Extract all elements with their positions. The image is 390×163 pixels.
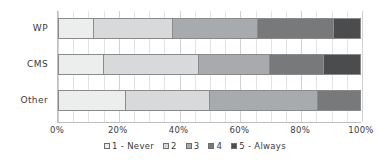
bar-rows [58,11,361,122]
y-axis-tick-label: CMS [27,59,48,69]
x-axis-tick-label: 40% [169,125,189,135]
bar-segment[interactable] [199,55,270,74]
legend-swatch-icon [231,143,237,149]
legend-item-label: 4 [216,141,222,151]
legend-swatch-icon [163,143,169,149]
bar-segment[interactable] [94,19,173,38]
legend-swatch-icon [104,143,110,149]
legend-item-label: 5 - Always [239,141,286,151]
legend-item-label: 1 - Never [112,141,154,151]
bar-segment[interactable] [324,55,360,74]
y-axis-labels: WP CMS Other [0,11,52,122]
x-axis-tick-label: 80% [290,125,310,135]
table-row[interactable] [58,90,361,111]
bar-segment[interactable] [334,19,360,38]
x-axis-line [57,122,361,123]
legend-item[interactable]: 3 [186,141,200,151]
table-row[interactable] [58,54,361,75]
legend-item[interactable]: 1 - Never [104,141,154,151]
legend-item[interactable]: 5 - Always [231,141,286,151]
bar-segment[interactable] [270,55,324,74]
bar-segment[interactable] [318,91,360,110]
legend-item[interactable]: 2 [163,141,177,151]
table-row[interactable] [58,18,361,39]
bar-segment[interactable] [104,55,199,74]
bar-segment[interactable] [258,19,334,38]
x-axis-tick-label: 20% [108,125,128,135]
y-axis-tick-label: WP [33,23,48,33]
stacked-bar-chart: WP CMS Other 0%20%40%60%80%100% 1 - Neve… [0,0,390,163]
legend-item[interactable]: 4 [208,141,222,151]
bar-segment[interactable] [59,91,126,110]
x-axis-tick-label: 100% [348,125,374,135]
y-axis-tick-label: Other [20,95,48,105]
bar-segment[interactable] [210,91,317,110]
chart-legend: 1 - Never2345 - Always [0,141,390,151]
x-axis-tick-label: 0% [50,125,64,135]
x-axis-tick-label: 60% [229,125,249,135]
bar-segment[interactable] [59,19,94,38]
legend-swatch-icon [208,143,214,149]
bar-segment[interactable] [59,55,104,74]
legend-swatch-icon [186,143,192,149]
legend-item-label: 3 [194,141,200,151]
bar-segment[interactable] [173,19,258,38]
plot-area [57,11,361,122]
legend-item-label: 2 [171,141,177,151]
gridline [362,11,363,122]
bar-segment[interactable] [126,91,210,110]
x-axis-labels: 0%20%40%60%80%100% [0,125,390,139]
